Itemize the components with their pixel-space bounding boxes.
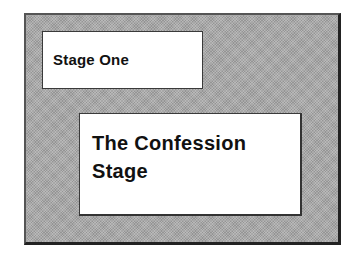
confession-stage-label: The Confession Stage xyxy=(92,129,246,185)
confession-stage-box: The Confession Stage xyxy=(79,113,302,216)
confession-stage-line-2: Stage xyxy=(92,157,246,185)
stage-one-box: Stage One xyxy=(42,31,203,89)
stage-one-label: Stage One xyxy=(53,51,129,68)
confession-stage-line-1: The Confession xyxy=(92,129,246,157)
diagram-frame: Stage One The Confession Stage xyxy=(24,13,341,245)
